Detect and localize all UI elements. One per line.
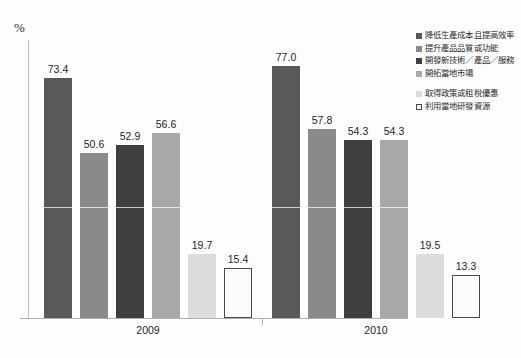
legend-swatch-icon: [416, 33, 422, 39]
chart-page: % 73.450.652.956.619.715.477.057.854.354…: [0, 0, 521, 358]
bar-value-label: 73.4: [28, 63, 88, 75]
bar-2010-series-1: 77.0: [272, 66, 300, 318]
bar-rect: [116, 145, 144, 318]
legend-label: 提升產品品質或功能: [425, 43, 519, 55]
bar-value-label: 77.0: [256, 51, 316, 63]
bar-2010-series-3: 54.3: [344, 140, 372, 318]
x-axis-group-label-2009: 2009: [88, 324, 208, 336]
bar-rect: [380, 140, 408, 318]
bar-value-label: 15.4: [208, 253, 268, 265]
bar-rect: [452, 275, 480, 318]
bar-rect: [80, 153, 108, 318]
bar-value-label: 19.5: [400, 239, 460, 251]
bar-2009-series-6: 15.4: [224, 268, 252, 318]
legend-swatch-icon: [416, 58, 422, 64]
legend-item-3[interactable]: 開發新技術／產品／服務: [416, 55, 519, 67]
bar-value-label: 54.3: [364, 125, 424, 137]
bar-rect: [272, 66, 300, 318]
legend-item-1[interactable]: 降低生產成本且提高效率: [416, 30, 519, 42]
legend-label: 利用當地研發資源: [425, 101, 519, 113]
bar-value-label: 57.8: [292, 114, 352, 126]
legend-item-4[interactable]: 開拓當地市場: [416, 68, 519, 80]
legend-label: 開拓當地市場: [425, 68, 519, 80]
x-axis-group-label-2010: 2010: [316, 324, 436, 336]
bar-value-label: 56.6: [136, 118, 196, 130]
legend: 降低生產成本且提高效率提升產品品質或功能開發新技術／產品／服務開拓當地市場取得政…: [416, 30, 519, 113]
legend-swatch-icon: [416, 46, 422, 52]
bar-2009-series-3: 52.9: [116, 145, 144, 318]
bar-2010-series-4: 54.3: [380, 140, 408, 318]
bar-value-label: 13.3: [436, 260, 496, 272]
bar-2009-series-2: 50.6: [80, 153, 108, 318]
plot-area: % 73.450.652.956.619.715.477.057.854.354…: [0, 0, 410, 358]
legend-item-2[interactable]: 提升產品品質或功能: [416, 43, 519, 55]
bar-2010-series-2: 57.8: [308, 129, 336, 318]
bar-value-label: 52.9: [100, 130, 160, 142]
bar-2009-series-4: 56.6: [152, 133, 180, 318]
bar-rect: [308, 129, 336, 318]
legend-swatch-icon: [416, 91, 422, 97]
bar-2009-series-1: 73.4: [44, 78, 72, 318]
group-separator-tick: [262, 318, 263, 325]
legend-label: 降低生產成本且提高效率: [425, 30, 519, 42]
bar-rect: [224, 268, 252, 318]
bar-rect: [344, 140, 372, 318]
bar-value-label: 19.7: [172, 239, 232, 251]
bar-2010-series-6: 13.3: [452, 275, 480, 318]
legend-swatch-icon: [416, 104, 422, 110]
bars-layer: 73.450.652.956.619.715.477.057.854.354.3…: [0, 0, 410, 358]
legend-item-6[interactable]: 利用當地研發資源: [416, 101, 519, 113]
legend-label: 取得政策或租稅優惠: [425, 88, 519, 100]
legend-label: 開發新技術／產品／服務: [425, 55, 519, 67]
legend-item-5[interactable]: 取得政策或租稅優惠: [416, 88, 519, 100]
bar-rect: [152, 133, 180, 318]
bar-rect: [44, 78, 72, 318]
legend-swatch-icon: [416, 71, 422, 77]
